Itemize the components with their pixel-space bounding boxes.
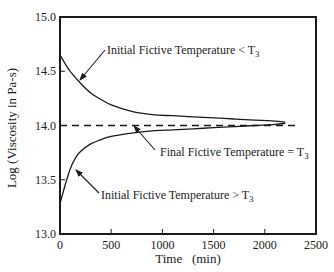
annotation-text: Final Fictive Temperature = T: [160, 145, 305, 159]
annotation-text: Initial Fictive Temperature < T: [107, 43, 256, 57]
data-series: [60, 55, 296, 204]
subscript: 3: [304, 151, 309, 161]
x-tick-label: 1000: [150, 238, 174, 252]
annotation-label: Final Fictive Temperature = T3: [160, 145, 309, 161]
annotation-arrow: [80, 50, 105, 80]
x-tick-label: 500: [102, 238, 120, 252]
x-axis-label: Time (min): [155, 251, 221, 266]
annotation-label: Initial Fictive Temperature > T3: [101, 188, 254, 204]
y-tick-label: 13.5: [35, 173, 56, 187]
y-tick-label: 14.5: [35, 64, 56, 78]
subscript: 3: [255, 49, 260, 59]
series-line-0: [60, 55, 285, 122]
y-axis-label: Log (Viscosity in Pa-s): [4, 68, 19, 188]
x-tick-label: 2500: [304, 238, 328, 252]
x-tick-label: 1500: [202, 238, 226, 252]
annotation-arrow: [134, 126, 155, 150]
annotation-arrow: [76, 170, 99, 193]
y-tick-label: 13.0: [35, 227, 56, 241]
annotation-label: Initial Fictive Temperature < T3: [107, 43, 260, 59]
viscosity-chart: 0500100015002000250013.013.514.014.515.0…: [0, 0, 334, 272]
annotation-text: Initial Fictive Temperature > T: [101, 188, 250, 202]
y-tick-label: 14.0: [35, 119, 56, 133]
y-tick-label: 15.0: [35, 10, 56, 24]
annotations: Initial Fictive Temperature < T3Final Fi…: [76, 43, 309, 204]
x-tick-label: 2000: [253, 238, 277, 252]
subscript: 3: [249, 194, 254, 204]
x-tick-label: 0: [57, 238, 63, 252]
